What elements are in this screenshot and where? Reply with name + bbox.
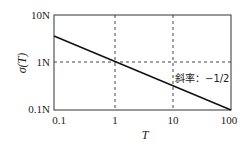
x-tick-1: 1 — [112, 114, 118, 126]
x-tick-10: 10 — [168, 114, 180, 126]
chart: 10N 1N 0.1N 0.1 1 10 100 T σ(T) 斜率：−1/2 — [0, 0, 247, 144]
slope-annotation: 斜率：−1/2 — [175, 72, 229, 84]
y-tick-1N: 1N — [37, 56, 51, 68]
y-tick-0.1N: 0.1N — [28, 103, 50, 115]
y-tick-10N: 10N — [31, 9, 50, 21]
x-axis-label: T — [142, 128, 150, 142]
x-tick-0.1: 0.1 — [52, 114, 66, 126]
x-tick-100: 100 — [221, 114, 238, 126]
y-axis-label: σ(T) — [15, 53, 29, 74]
